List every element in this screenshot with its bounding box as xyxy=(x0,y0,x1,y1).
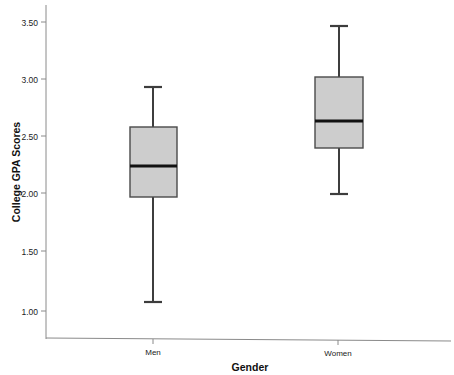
y-tick-label: 3.00 xyxy=(21,75,38,85)
box-iqr[interactable] xyxy=(130,127,177,197)
y-axis-title: College GPA Scores xyxy=(10,122,22,223)
boxplot-chart: 3.50 3.00 2.50 2.00 1.50 1.00 College GP… xyxy=(0,0,454,375)
x-tick-label-women: Women xyxy=(324,349,351,358)
y-tick-label: 1.00 xyxy=(21,307,38,317)
boxplot-women[interactable] xyxy=(315,26,363,194)
x-axis-ticks: Men Women xyxy=(145,339,351,358)
x-tick-label-men: Men xyxy=(145,348,161,357)
y-tick-label: 1.50 xyxy=(21,247,38,257)
boxplot-men[interactable] xyxy=(130,87,177,302)
y-tick-label: 3.50 xyxy=(21,18,38,28)
y-tick-label: 2.50 xyxy=(21,132,38,142)
y-tick-label: 2.00 xyxy=(21,189,38,199)
box-iqr[interactable] xyxy=(315,77,363,148)
plot-area: 3.50 3.00 2.50 2.00 1.50 1.00 College GP… xyxy=(0,0,454,375)
x-axis-line xyxy=(46,338,451,341)
y-axis-ticks: 3.50 3.00 2.50 2.00 1.50 1.00 xyxy=(21,18,46,317)
x-axis-title: Gender xyxy=(232,361,269,373)
